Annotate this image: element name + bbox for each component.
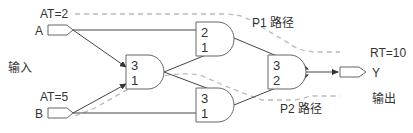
gate-g2-bottom-delay: 1 [201,40,208,55]
input-a-arrival-time: AT=2 [40,7,68,21]
input-port-a[interactable] [48,25,73,35]
p2-path-label: P2 路径 [280,101,322,116]
inputs-label: 输入 [8,60,32,75]
gate-g1-bottom-delay: 1 [131,73,138,88]
gate-g2-top-delay: 2 [201,25,208,40]
output-required-time: RT=10 [370,46,406,60]
gate-g3-bottom-delay: 1 [201,106,208,121]
input-a-name: A [35,24,43,38]
output-port-y[interactable] [340,67,366,77]
wire-a-to-g1 [73,30,126,67]
p1-path-label: P1 路径 [252,15,294,30]
outputs-label: 输出 [372,91,396,106]
input-port-b[interactable] [48,108,73,118]
output-name: Y [372,66,380,80]
gate-g4-top-delay: 3 [273,58,280,73]
gate-g3-top-delay: 3 [201,91,208,106]
input-b-arrival-time: AT=5 [40,90,68,104]
gate-g4-bottom-delay: 2 [273,73,280,88]
gate-g1-top-delay: 3 [131,58,138,73]
timing-path-diagram: 3 1 2 1 3 1 3 2 AT=2 A AT=5 B 输入 P1 路径 P… [0,0,413,133]
wire-b-to-g1 [73,84,126,113]
input-b-name: B [35,107,43,121]
